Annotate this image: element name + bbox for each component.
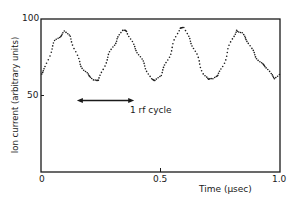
data-point <box>52 45 54 47</box>
data-point <box>188 35 190 37</box>
data-point <box>214 77 216 79</box>
data-point <box>57 38 59 40</box>
data-point <box>235 31 237 33</box>
data-point <box>43 70 45 72</box>
data-point <box>227 48 229 50</box>
data-point <box>102 69 104 71</box>
data-point <box>46 62 48 64</box>
data-point <box>122 30 124 32</box>
data-point <box>146 71 148 73</box>
data-point <box>206 76 208 78</box>
data-point <box>224 63 226 65</box>
data-point <box>251 48 253 50</box>
data-point <box>115 43 117 45</box>
chart-canvas <box>0 0 292 201</box>
data-point <box>107 56 109 58</box>
data-point <box>65 32 67 34</box>
data-point <box>93 79 95 81</box>
data-point <box>143 63 145 65</box>
data-point <box>61 34 63 36</box>
data-point <box>190 43 192 45</box>
data-point <box>42 72 44 74</box>
data-point <box>275 77 277 79</box>
data-point <box>70 36 72 38</box>
data-point <box>277 75 279 77</box>
data-point <box>54 40 56 42</box>
data-point <box>218 73 220 75</box>
data-point <box>200 67 202 69</box>
data-point <box>245 39 247 41</box>
data-point <box>279 74 281 76</box>
data-point <box>217 75 219 77</box>
data-point <box>198 57 200 59</box>
data-point <box>157 77 159 79</box>
data-point <box>88 73 90 75</box>
data-point <box>193 48 195 50</box>
data-point <box>81 68 83 70</box>
y-tick-label-0: 0 <box>39 174 45 184</box>
data-point <box>191 45 193 47</box>
data-point <box>136 52 138 54</box>
data-point <box>116 41 118 43</box>
data-point <box>148 73 150 75</box>
data-point <box>134 46 136 48</box>
data-point <box>243 34 245 36</box>
data-point <box>219 71 221 73</box>
data-point <box>144 65 146 67</box>
data-point <box>178 30 180 32</box>
data-point <box>67 33 69 35</box>
data-point <box>171 50 173 52</box>
data-point <box>172 43 174 45</box>
data-point <box>71 41 73 43</box>
data-point <box>175 36 177 38</box>
data-point <box>75 51 77 53</box>
data-point <box>225 59 227 61</box>
data-point <box>106 59 108 61</box>
data-point <box>272 74 274 76</box>
data-point <box>86 72 88 74</box>
data-point <box>135 48 137 50</box>
data-point <box>161 72 163 74</box>
data-point <box>167 59 169 61</box>
data-point <box>78 58 80 60</box>
data-point <box>94 79 96 81</box>
data-point <box>120 32 122 34</box>
data-point <box>210 78 212 80</box>
data-point <box>198 60 200 62</box>
data-point <box>64 30 66 32</box>
data-point <box>265 67 267 69</box>
data-point <box>140 56 142 58</box>
data-point <box>185 30 187 32</box>
data-point <box>110 49 112 51</box>
data-point <box>156 78 158 80</box>
data-point <box>189 38 191 40</box>
data-point <box>51 48 53 50</box>
data-points <box>41 27 280 82</box>
data-point <box>161 75 163 77</box>
data-point <box>132 41 134 43</box>
data-point <box>220 68 222 70</box>
data-point <box>138 54 140 56</box>
rf-cycle-arrow <box>77 98 134 103</box>
data-point <box>53 42 55 44</box>
data-point <box>267 69 269 71</box>
data-point <box>196 53 198 55</box>
data-point <box>51 52 53 54</box>
data-point <box>165 62 167 64</box>
data-point <box>69 34 71 36</box>
data-point <box>41 73 43 75</box>
data-point <box>127 33 129 35</box>
data-point <box>114 45 116 47</box>
data-point <box>241 32 243 34</box>
data-point <box>245 37 247 39</box>
data-point <box>49 55 51 57</box>
data-point <box>77 54 79 56</box>
data-point <box>171 47 173 49</box>
data-point <box>212 78 214 80</box>
data-point <box>233 36 235 38</box>
data-point <box>238 31 240 33</box>
data-point <box>256 58 258 60</box>
data-point <box>235 34 237 36</box>
data-point <box>264 66 266 68</box>
data-point <box>222 66 224 68</box>
